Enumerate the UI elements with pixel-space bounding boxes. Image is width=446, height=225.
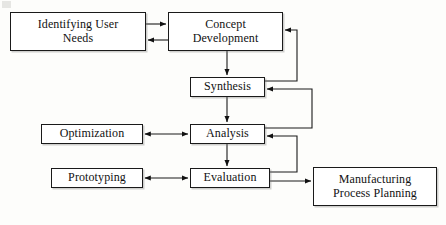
node-label-identifying-user-needs: Identifying User Needs [36, 18, 121, 45]
node-evaluation: Evaluation [190, 168, 270, 188]
node-label-prototyping: Prototyping [66, 171, 128, 184]
node-label-evaluation: Evaluation [202, 171, 259, 184]
connector-analysis-to-synthesis-feedback [265, 89, 312, 128]
connector-evaluation-to-analysis-feedback [267, 136, 297, 172]
node-label-analysis: Analysis [204, 127, 251, 140]
node-prototyping: Prototyping [51, 168, 143, 188]
node-concept-development: Concept Development [168, 12, 283, 51]
flow-diagram: Identifying User NeedsConcept Developmen… [0, 0, 446, 225]
node-label-manufacturing-process-planning: Manufacturing Process Planning [331, 173, 419, 200]
node-analysis: Analysis [190, 124, 265, 144]
node-synthesis: Synthesis [190, 77, 265, 97]
node-identifying-user-needs: Identifying User Needs [10, 12, 146, 51]
node-manufacturing-process-planning: Manufacturing Process Planning [313, 167, 437, 206]
node-label-optimization: Optimization [58, 127, 127, 140]
node-optimization: Optimization [41, 124, 143, 144]
node-label-concept-development: Concept Development [191, 18, 261, 45]
node-label-synthesis: Synthesis [202, 80, 253, 93]
